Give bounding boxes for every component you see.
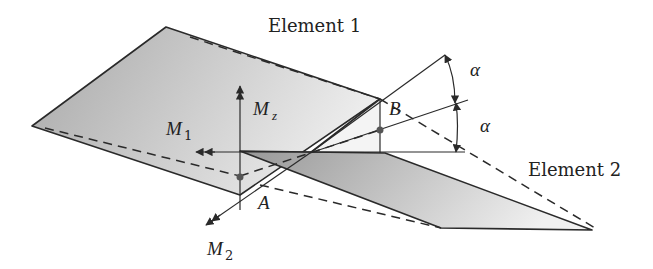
two-element-plate-diagram: Element 1 Element 2 B A α α M z M 1 M 2 [0,0,653,269]
point-a-label: A [256,192,270,213]
svg-text:M: M [206,238,224,259]
point-b-dot [377,127,384,134]
alpha-lower-label: α [480,115,491,136]
svg-text:M: M [252,98,270,119]
element2-label: Element 2 [528,159,621,180]
point-b-label: B [389,98,401,119]
point-a-dot [237,174,244,181]
svg-text:M: M [165,118,183,139]
svg-text:1: 1 [184,128,192,143]
svg-text:z: z [271,108,277,123]
svg-text:2: 2 [225,248,233,263]
alpha-upper-label: α [470,59,481,80]
angle-arcs [445,55,458,152]
m2-label: M 2 [206,238,233,263]
element1-label: Element 1 [268,15,361,36]
